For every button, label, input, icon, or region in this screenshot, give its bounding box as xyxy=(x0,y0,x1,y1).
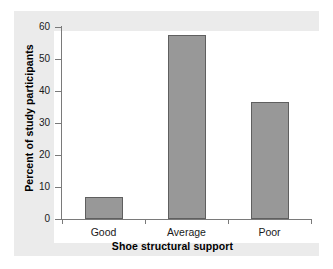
bar-poor xyxy=(251,102,289,219)
y-tick-mark xyxy=(55,155,61,156)
bar-good xyxy=(85,197,123,219)
y-tick-mark xyxy=(55,91,61,92)
y-tick-mark xyxy=(55,219,61,220)
y-axis-line xyxy=(61,26,62,220)
x-tick-mark xyxy=(228,219,229,224)
bar-average xyxy=(168,35,206,219)
x-axis-title: Shoe structural support xyxy=(40,240,305,252)
y-axis-title: Percent of study participants xyxy=(23,13,35,223)
x-tick-label: Poor xyxy=(228,226,311,238)
x-tick-mark xyxy=(62,219,63,224)
y-tick-mark xyxy=(55,59,61,60)
x-tick-mark xyxy=(311,219,312,224)
x-tick-mark xyxy=(145,219,146,224)
y-tick-mark xyxy=(55,27,61,28)
y-tick-mark xyxy=(55,123,61,124)
y-tick-mark xyxy=(55,187,61,188)
x-tick-label: Good xyxy=(62,226,145,238)
x-axis-line xyxy=(61,219,311,220)
x-tick-label: Average xyxy=(145,226,228,238)
figure: 0102030405060 GoodAveragePoor Percent of… xyxy=(0,0,333,269)
